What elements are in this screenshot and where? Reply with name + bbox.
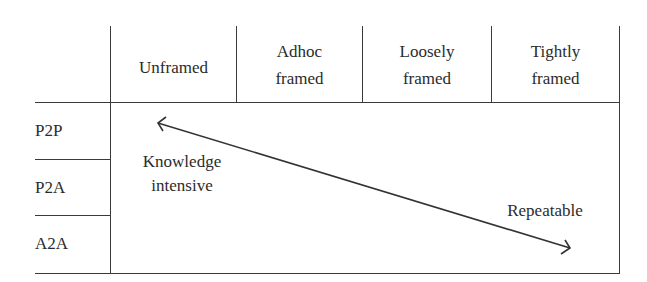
- arrow-start-label-line1: Knowledge: [128, 150, 236, 174]
- double-headed-arrow-icon: [0, 0, 647, 282]
- arrow-start-label: Knowledge intensive: [128, 150, 236, 198]
- arrow-end-label: Repeatable: [490, 199, 600, 222]
- framing-diagram: Unframed Adhoc framed Loosely framed Tig…: [0, 0, 647, 282]
- arrow-start-label-line2: intensive: [128, 174, 236, 198]
